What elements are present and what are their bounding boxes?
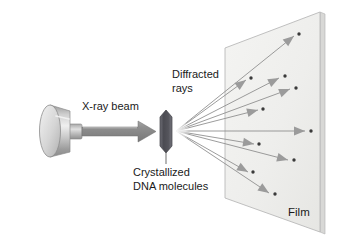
label-crystal-line2: DNA molecules xyxy=(133,180,209,192)
label-crystal-line1: Crystallized xyxy=(133,166,190,178)
diffraction-spot-5 xyxy=(261,107,264,110)
label-xray-beam: X-ray beam xyxy=(82,100,139,112)
xray-diffraction-figure: X-ray beam Diffracted rays Crystallized … xyxy=(0,0,337,250)
diffraction-spot-9 xyxy=(251,170,254,173)
beam-arrow-shape xyxy=(82,121,156,142)
diagram-canvas: X-ray beam Diffracted rays Crystallized … xyxy=(0,0,337,250)
detector-film xyxy=(225,12,325,234)
label-film: Film xyxy=(288,206,310,218)
diffraction-spot-3 xyxy=(283,74,286,77)
diffraction-spot-6 xyxy=(309,129,312,132)
label-diffracted-rays-line2: rays xyxy=(172,82,193,94)
tube-front-face xyxy=(40,105,61,157)
diffraction-spot-1 xyxy=(297,32,300,35)
x-ray-beam-arrow xyxy=(82,121,156,142)
dna-crystal xyxy=(160,110,189,164)
x-ray-tube xyxy=(40,105,83,157)
diffraction-spot-7 xyxy=(257,142,260,145)
crystal-body xyxy=(160,110,172,153)
film-side-edge xyxy=(320,12,325,234)
diffraction-spot-2 xyxy=(249,76,252,79)
diffraction-spot-4 xyxy=(294,86,297,89)
diffraction-spot-10 xyxy=(273,192,276,195)
label-diffracted-rays-line1: Diffracted xyxy=(172,68,219,80)
diffraction-spot-8 xyxy=(292,158,295,161)
film-face xyxy=(225,12,320,232)
